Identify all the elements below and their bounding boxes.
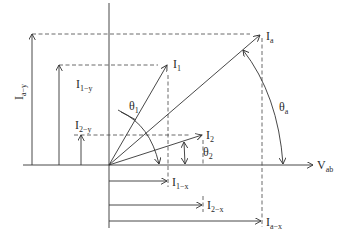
theta-2-label: θ2 bbox=[203, 145, 213, 161]
ia-y-label: Ia−y bbox=[12, 84, 28, 100]
i2-label: I2 bbox=[206, 128, 214, 144]
ia-x-label: Ia−x bbox=[266, 215, 282, 231]
phasor-diagram: Vab Ia I1 I2 θa θ1 θ2 Ia−y I1−y I2−y bbox=[0, 0, 347, 244]
theta-a-label: θa bbox=[279, 100, 289, 116]
i1-x-label: I1−x bbox=[172, 175, 189, 191]
theta-2-arc bbox=[184, 142, 185, 164]
phasor-i2 bbox=[109, 135, 202, 165]
theta-1-label: θ1 bbox=[129, 99, 139, 115]
theta-a-arc bbox=[243, 50, 283, 164]
i1-y-label: I1−y bbox=[76, 77, 93, 93]
phasor-i1 bbox=[109, 65, 167, 165]
i2-x-label: I2−x bbox=[207, 198, 224, 214]
i1-label: I1 bbox=[173, 57, 181, 73]
ia-label: Ia bbox=[266, 29, 274, 45]
vab-label: Vab bbox=[317, 158, 333, 174]
i2-y-label: I2−y bbox=[75, 118, 92, 134]
